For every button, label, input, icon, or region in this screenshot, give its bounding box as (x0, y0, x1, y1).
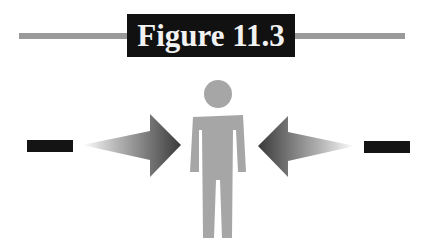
diagram-graphics (0, 0, 431, 252)
arrow-left-icon (258, 116, 355, 177)
arrow-right-icon (82, 114, 181, 177)
person-icon (190, 80, 246, 238)
